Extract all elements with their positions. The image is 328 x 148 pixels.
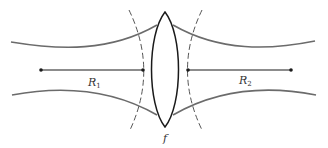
label-r2: R2 [238,74,252,88]
label-r2-main: R [238,74,247,87]
label-r1: R1 [87,76,101,90]
label-r2-sub: 2 [247,80,251,88]
radius-r2-center-dot [289,68,293,72]
radius-r1 [39,68,145,72]
radius-r2-wavefront-dot [186,68,190,72]
beam-left-upper-edge [11,25,157,47]
label-focal-length: f [162,132,169,145]
radius-r1-center-dot [39,68,43,72]
label-r1-main: R [87,76,96,89]
radius-r1-wavefront-dot [141,68,145,72]
gaussian-beam-lens-diagram: R1 R2 f [0,0,328,148]
radius-r2 [186,68,293,72]
lens [152,12,179,127]
beam-left-lower-edge [12,90,157,115]
label-r1-sub: 1 [96,82,100,90]
